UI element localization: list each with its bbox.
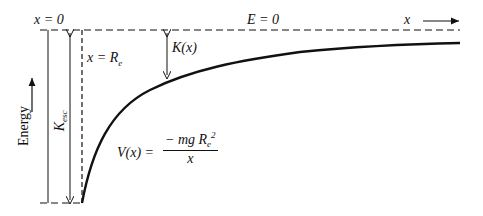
- energy-axis-label: Energy: [16, 106, 32, 146]
- potential-lhs-label: V(x) =: [117, 145, 154, 161]
- x-re-label: x = Re: [87, 50, 122, 68]
- diagram-canvas: [0, 0, 483, 216]
- potential-numerator: − mg Re2: [163, 130, 218, 151]
- x-axis-label: x: [404, 12, 410, 28]
- kinetic-label: K(x): [172, 40, 197, 56]
- potential-curve: [82, 43, 460, 203]
- x-zero-label: x = 0: [34, 12, 64, 28]
- e-zero-label: E = 0: [247, 12, 279, 28]
- potential-fraction: − mg Re2 x: [163, 130, 218, 167]
- k-esc-label: Kesc: [52, 110, 70, 131]
- potential-denominator: x: [163, 151, 218, 167]
